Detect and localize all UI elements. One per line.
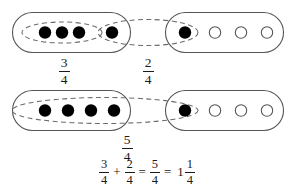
label-five-fourths-numerator: 5 (119, 133, 135, 147)
equation-term-1-denominator: 4 (99, 174, 109, 187)
equation-result-denominator: 4 (150, 174, 160, 187)
label-three-fourths: 3 4 (56, 56, 72, 86)
equals-operator-2: = (164, 164, 171, 180)
equation-term-2-denominator: 4 (125, 174, 135, 187)
top-left-dot-1 (39, 26, 51, 38)
top-right-dot-3 (235, 27, 246, 38)
bottom-right-dot-2 (209, 105, 220, 116)
equation-term-2: 2 4 (125, 158, 135, 186)
equation: 3 4 + 2 4 = 5 4 = 1 1 4 (0, 158, 294, 186)
label-three-fourths-numerator: 3 (56, 56, 72, 70)
top-left-dot-2 (56, 26, 68, 38)
top-left-dot-4 (106, 26, 118, 38)
equation-term-1: 3 4 (99, 158, 109, 186)
equation-term-1-numerator: 3 (99, 158, 109, 171)
top-right-dot-2 (209, 27, 220, 38)
top-right-dot-1 (179, 26, 191, 38)
equation-term-2-numerator: 2 (125, 158, 135, 171)
bottom-right-dot-3 (235, 105, 246, 116)
equation-result-improper: 5 4 (150, 158, 160, 186)
bottom-left-dot-2 (62, 104, 74, 116)
top-left-dot-3 (73, 26, 85, 38)
fraction-diagram: 3 4 2 4 5 4 3 4 + 2 4 = 5 4 = (0, 0, 294, 195)
label-three-fourths-denominator: 4 (56, 73, 72, 87)
top-right-dot-4 (261, 27, 272, 38)
mixed-fraction-denominator: 4 (185, 174, 195, 187)
label-two-fourths-numerator: 2 (140, 56, 156, 70)
equation-result-numerator: 5 (150, 158, 160, 171)
equals-operator-1: = (139, 164, 146, 180)
bottom-right-dot-1 (179, 104, 191, 116)
mixed-fraction-numerator: 1 (185, 158, 195, 171)
plus-operator: + (113, 164, 120, 180)
equation-result-mixed: 1 1 4 (174, 158, 196, 186)
bottom-right-dot-4 (261, 105, 272, 116)
bottom-left-dot-3 (85, 104, 97, 116)
label-two-fourths: 2 4 (140, 56, 156, 86)
mixed-whole-number: 1 (177, 164, 184, 180)
bottom-left-dot-4 (108, 104, 120, 116)
bottom-left-dot-1 (39, 104, 51, 116)
mixed-fraction-part: 1 4 (185, 158, 195, 186)
label-two-fourths-denominator: 4 (140, 73, 156, 87)
